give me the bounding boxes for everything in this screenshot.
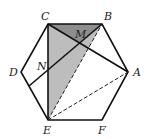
label-m: M: [74, 28, 87, 41]
label-d: D: [8, 66, 18, 79]
label-a: A: [132, 66, 141, 79]
label-b: B: [103, 10, 112, 23]
label-c: C: [41, 10, 50, 23]
label-f: F: [97, 124, 106, 137]
label-e: E: [42, 124, 51, 137]
hexagon-diagram: C B M N D A E F: [0, 0, 150, 139]
label-n: N: [36, 60, 47, 73]
